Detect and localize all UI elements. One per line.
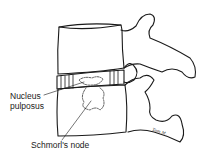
nucleus-pulposus xyxy=(79,77,103,85)
upper-posterior-process xyxy=(121,14,195,78)
schmorls-node xyxy=(82,88,104,110)
nucleus-pulposus-label: Nucleus pulposus xyxy=(10,92,44,111)
nucleus-label-line2: pulposus xyxy=(10,102,44,112)
upper-vertebral-body xyxy=(58,24,124,74)
schmorl-leader-line xyxy=(62,101,91,140)
facet-joint xyxy=(124,63,137,82)
schmorls-node-label: Schmorl's node xyxy=(31,141,89,151)
lower-vertebral-body xyxy=(57,85,127,136)
nucleus-leader-line xyxy=(44,82,84,95)
vertebra-diagram: Nucleus pulposus Schmorl's node Tom M. xyxy=(0,0,207,166)
